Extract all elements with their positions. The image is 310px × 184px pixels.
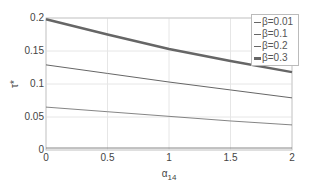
legend: β=0.01 β=0.1 β=0.2 β=0.3 — [251, 14, 299, 66]
y-tick-label: 0.2 — [30, 12, 44, 23]
x-tick-label: 2 — [289, 152, 295, 163]
x-tick-label: 1 — [166, 152, 172, 163]
legend-item: β=0.1 — [254, 28, 296, 40]
y-tick-label: 0.05 — [25, 111, 45, 122]
y-tick-label: 0 — [38, 144, 44, 155]
legend-item: β=0.3 — [254, 52, 296, 64]
y-axis-label: τ* — [9, 80, 20, 88]
legend-item: β=0.01 — [254, 16, 296, 28]
y-tick-label: 0.1 — [30, 78, 44, 89]
x-tick-label: 1.5 — [224, 152, 238, 163]
y-tick-label: 0.15 — [25, 45, 45, 56]
x-tick-label: 0.5 — [101, 152, 115, 163]
x-tick-label: 0 — [43, 152, 49, 163]
legend-item: β=0.2 — [254, 40, 296, 52]
x-axis-label: α14 — [162, 168, 177, 182]
chart: 00.511.5200.050.10.150.2α14τ* β=0.01 β=0… — [0, 0, 310, 184]
